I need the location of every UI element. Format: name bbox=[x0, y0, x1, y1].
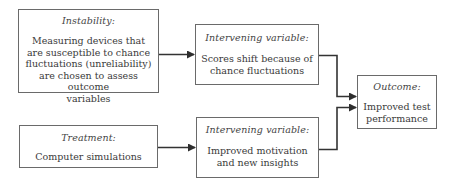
treatment-box: Treatment: Computer simulations bbox=[19, 125, 158, 168]
intervening-variable-2-box: Intervening variable: Improved motivatio… bbox=[196, 117, 319, 178]
intervening-variable-2-text: Improved motivation and new insights bbox=[197, 145, 318, 168]
text-line: Measuring devices that bbox=[19, 35, 158, 47]
text-line: variables bbox=[19, 93, 158, 105]
outcome-title: Outcome: bbox=[358, 81, 436, 92]
outcome-text: Improved test performance bbox=[358, 101, 436, 124]
intervening-variable-2-title: Intervening variable: bbox=[197, 124, 318, 135]
text-line: Improved motivation bbox=[197, 145, 318, 157]
instability-title: Instability: bbox=[19, 15, 158, 26]
text-line: are chosen to assess outcome bbox=[19, 70, 158, 93]
treatment-title: Treatment: bbox=[20, 132, 157, 143]
instability-box: Instability: Measuring devices that are … bbox=[18, 9, 159, 93]
text-line: performance bbox=[358, 113, 436, 125]
intervening-variable-1-text: Scores shift because of chance fluctuati… bbox=[196, 53, 318, 76]
treatment-text: Computer simulations bbox=[20, 151, 157, 163]
text-line: Improved test bbox=[358, 101, 436, 113]
text-line: Computer simulations bbox=[20, 151, 157, 163]
text-line: chance fluctuations bbox=[196, 65, 318, 77]
text-line: and new insights bbox=[197, 157, 318, 169]
arrow-intervening1-to-outcome bbox=[319, 56, 356, 97]
arrow-intervening2-to-outcome bbox=[319, 108, 356, 150]
instability-text: Measuring devices that are susceptible t… bbox=[19, 35, 158, 104]
text-line: fluctuations (unreliability) bbox=[19, 58, 158, 70]
outcome-box: Outcome: Improved test performance bbox=[357, 75, 437, 129]
intervening-variable-1-title: Intervening variable: bbox=[196, 32, 318, 43]
text-line: are susceptible to chance bbox=[19, 47, 158, 59]
intervening-variable-1-box: Intervening variable: Scores shift becau… bbox=[195, 24, 319, 85]
text-line: Scores shift because of bbox=[196, 53, 318, 65]
